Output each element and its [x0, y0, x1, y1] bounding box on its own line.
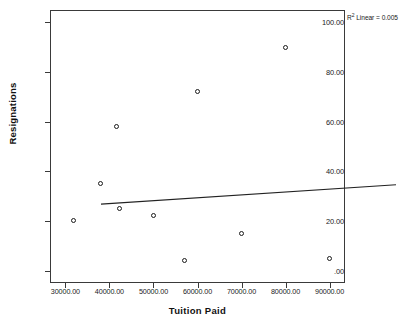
x-tick-mark	[65, 283, 66, 288]
y-axis-title: Resignations	[7, 49, 18, 179]
y-tick-mark	[45, 72, 50, 73]
x-tick-mark	[242, 283, 243, 288]
y-tick-label: .00	[298, 267, 344, 276]
data-point	[239, 231, 244, 236]
regression-line	[101, 21, 396, 294]
data-point	[114, 124, 119, 129]
x-tick-mark	[109, 283, 110, 288]
y-tick-mark	[45, 122, 50, 123]
y-tick-label: 40.00	[298, 167, 344, 176]
y-tick-mark	[45, 171, 50, 172]
y-tick-label: 100.00	[298, 18, 344, 27]
x-tick-mark	[153, 283, 154, 288]
y-tick-mark	[45, 271, 50, 272]
y-tick-label: 80.00	[298, 68, 344, 77]
x-tick-label: 90000.00	[300, 287, 360, 296]
plot-area	[50, 10, 345, 283]
r2-text: Linear = 0.005	[354, 14, 397, 21]
x-tick-mark	[198, 283, 199, 288]
x-tick-mark	[286, 283, 287, 288]
scatter-chart: 100.0080.0060.0040.0020.00.00 30000.0040…	[0, 0, 401, 326]
r-squared-annotation: R2 Linear = 0.005	[347, 12, 398, 21]
x-tick-mark	[330, 283, 331, 288]
y-tick-mark	[45, 22, 50, 23]
fit-line-segment	[101, 185, 396, 204]
x-axis-title: Tuition Paid	[50, 305, 345, 316]
y-tick-label: 60.00	[298, 118, 344, 127]
data-point	[327, 256, 332, 261]
data-point	[117, 206, 122, 211]
data-point	[283, 45, 288, 50]
y-tick-mark	[45, 221, 50, 222]
y-tick-label: 20.00	[298, 217, 344, 226]
data-point	[182, 258, 187, 263]
